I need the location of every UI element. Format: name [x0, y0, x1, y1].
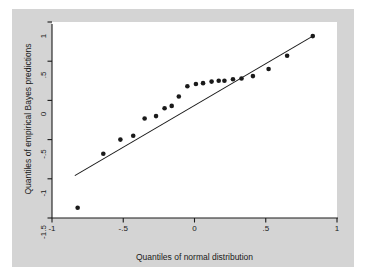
y-tick-label: .5 [40, 60, 48, 90]
x-tick-label: 0 [175, 225, 215, 233]
data-point [285, 53, 290, 58]
qq-plot-figure: -1.5-1-.50.51 -1-.50.51 Quantiles of nor… [0, 0, 366, 276]
x-tick-label: -1 [32, 225, 72, 233]
data-point [162, 106, 167, 111]
y-tick-label: 0 [40, 99, 48, 129]
data-point [194, 82, 199, 87]
data-point [251, 74, 256, 79]
data-point [310, 34, 315, 39]
y-tick-label: 1 [40, 21, 48, 51]
data-point [75, 206, 80, 211]
data-points [75, 34, 315, 210]
x-tick-label: .5 [246, 225, 286, 233]
data-point [142, 116, 147, 121]
data-point [131, 133, 136, 138]
y-tick-label: -1 [40, 178, 48, 208]
x-tick-label: -.5 [103, 225, 143, 233]
data-point [185, 84, 190, 89]
plot-canvas [0, 0, 366, 276]
data-point [169, 104, 174, 109]
data-point [231, 77, 236, 82]
axis-ticks [48, 22, 338, 223]
y-tick-label: -.5 [40, 139, 48, 169]
data-point [118, 137, 123, 142]
x-tick-label: 1 [317, 225, 357, 233]
y-axis-title: Quantiles of empirical Bayes predictions [23, 21, 33, 217]
axis-lines [52, 24, 338, 218]
data-point [201, 81, 206, 86]
data-point [154, 114, 159, 119]
data-point [209, 79, 214, 84]
data-point [222, 79, 227, 84]
x-axis-title: Quantiles of normal distribution [52, 252, 337, 262]
reference-line-segment [75, 36, 313, 176]
data-point [216, 79, 221, 84]
data-point [266, 67, 271, 72]
reference-line [75, 36, 313, 176]
data-point [101, 151, 106, 156]
data-point [177, 94, 182, 99]
data-point [239, 76, 244, 81]
